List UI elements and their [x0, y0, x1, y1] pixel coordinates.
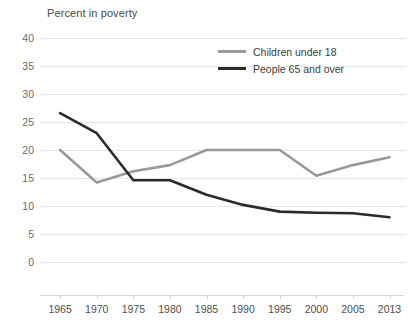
x-axis-tick [280, 295, 281, 299]
series-line [60, 113, 389, 217]
x-axis-tick [243, 295, 244, 299]
x-axis-tick [316, 295, 317, 299]
x-axis-tick [133, 295, 134, 299]
y-axis-tick-label: 10 [8, 200, 34, 212]
chart-title: Percent in poverty [47, 7, 137, 19]
x-axis-rule [40, 295, 404, 296]
x-axis-tick-label: 1970 [85, 303, 108, 315]
x-axis-tick [390, 295, 391, 299]
y-axis-tick-label: 25 [8, 116, 34, 128]
x-axis-tick [97, 295, 98, 299]
x-axis-tick [207, 295, 208, 299]
legend-item-label: Children under 18 [253, 46, 336, 58]
gridline [40, 262, 406, 263]
y-axis-tick-label: 35 [8, 60, 34, 72]
x-axis-tick-label: 1980 [158, 303, 181, 315]
y-axis: 4035302520151050 [8, 38, 34, 262]
x-axis-tick-label: 2005 [341, 303, 364, 315]
x-axis-tick-label: 2000 [305, 303, 328, 315]
x-axis-tick [170, 295, 171, 299]
legend-item: People 65 and over [218, 61, 344, 76]
legend-item-label: People 65 and over [253, 63, 344, 75]
x-axis-tick [60, 295, 61, 299]
x-axis-tick-label: 1990 [231, 303, 254, 315]
y-axis-tick-label: 15 [8, 172, 34, 184]
y-axis-tick-label: 5 [8, 228, 34, 240]
legend-line-swatch-icon [218, 50, 246, 53]
x-axis-tick-label: 1995 [268, 303, 291, 315]
chart-legend: Children under 18People 65 and over [218, 44, 344, 78]
x-axis-tick-label: 1985 [195, 303, 218, 315]
series-line [60, 150, 389, 182]
y-axis-tick-label: 0 [8, 256, 34, 268]
x-axis-tick-label: 1975 [122, 303, 145, 315]
x-axis-tick-label: 2013 [378, 303, 401, 315]
legend-item: Children under 18 [218, 44, 344, 59]
y-axis-tick-label: 40 [8, 32, 34, 44]
y-axis-tick-label: 20 [8, 144, 34, 156]
x-axis-tick-label: 1965 [48, 303, 71, 315]
poverty-rate-line-chart: Percent in poverty 4035302520151050 1965… [0, 0, 408, 324]
x-axis-tick [353, 295, 354, 299]
legend-line-swatch-icon [218, 67, 246, 70]
y-axis-tick-label: 30 [8, 88, 34, 100]
